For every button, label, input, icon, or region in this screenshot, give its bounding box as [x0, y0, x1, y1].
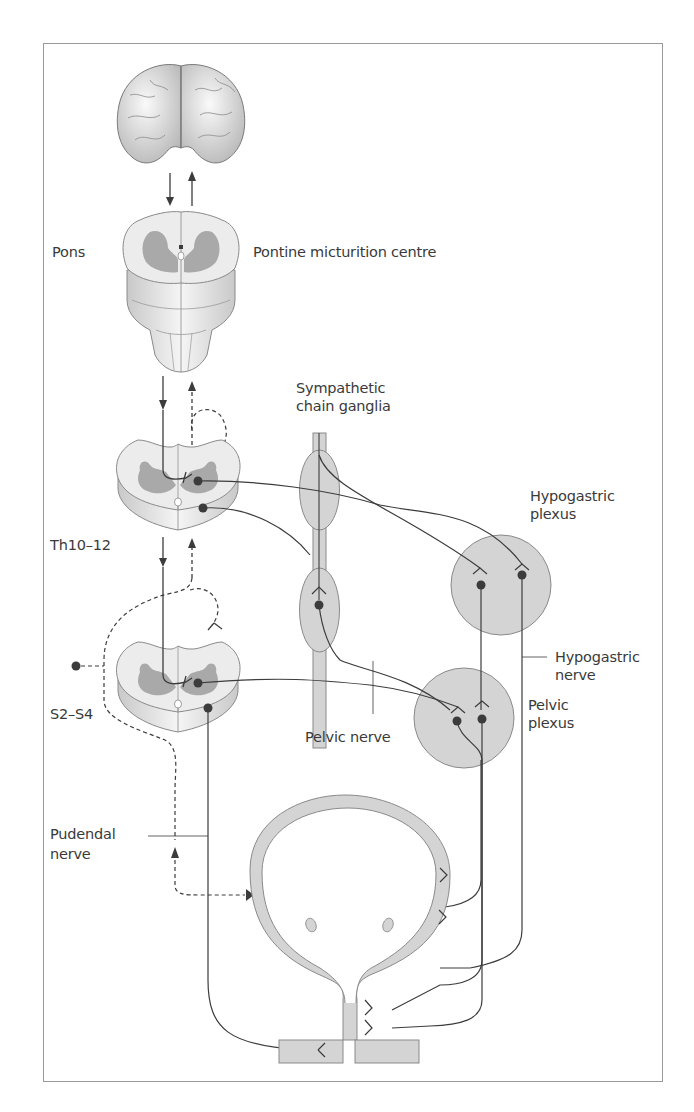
sympathetic-chain-icon — [300, 433, 340, 748]
afferent-terminal-dot — [72, 662, 81, 671]
label-hypogastric-nerve-2: nerve — [555, 666, 596, 685]
label-th10-12: Th10–12 — [50, 536, 111, 555]
label-pons: Pons — [52, 243, 85, 262]
label-hypogastric-plexus-1: Hypogastric — [530, 487, 615, 506]
label-pudendal-2: nerve — [50, 845, 91, 864]
label-sympathetic-1: Sympathetic — [296, 379, 385, 398]
label-pelvic-nerve: Pelvic nerve — [305, 728, 391, 747]
label-pelvic-plexus-2: plexus — [528, 714, 574, 733]
pons-icon — [123, 212, 239, 372]
brain-icon — [117, 65, 244, 163]
pontine-centre-marker — [179, 245, 183, 249]
label-pelvic-plexus-1: Pelvic — [528, 696, 569, 715]
hypogastric-plexus-icon — [451, 535, 551, 635]
label-s2-s4: S2–S4 — [50, 705, 93, 724]
sacral-segment-icon — [116, 642, 240, 732]
external-sphincter-icon — [279, 1040, 419, 1063]
thoracic-segment-icon — [116, 440, 240, 530]
label-hypogastric-plexus-2: plexus — [530, 505, 576, 524]
pudendal-afferent-arrow-icon — [171, 847, 179, 858]
bladder-icon — [250, 795, 450, 1040]
label-sympathetic-2: chain ganglia — [296, 397, 391, 416]
label-hypogastric-nerve-1: Hypogastric — [555, 648, 640, 667]
label-pontine-centre: Pontine micturition centre — [253, 243, 436, 262]
micturition-diagram — [0, 0, 694, 1112]
pelvic-plexus-icon — [414, 668, 514, 768]
label-pudendal-1: Pudendal — [50, 825, 116, 844]
